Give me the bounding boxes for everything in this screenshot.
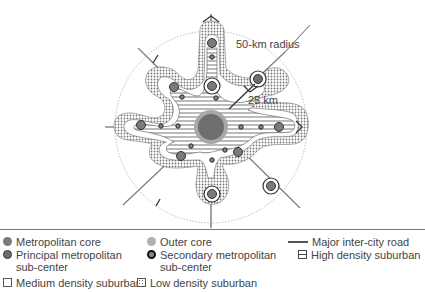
legend-item-high-density: High density suburban xyxy=(298,249,420,261)
dotted-square-icon xyxy=(137,278,146,287)
legend-item-metropolitan-core: Metropolitan core xyxy=(3,236,101,248)
dark-ringed-circle-icon xyxy=(3,250,12,259)
legend-item-secondary-subcenter: Secondary metropolitan sub-center xyxy=(147,249,287,273)
legend-item-medium-density: Medium density suburban xyxy=(3,277,142,289)
outer-radius-label: 50-km radius xyxy=(236,38,300,50)
hatched-square-icon xyxy=(298,250,307,259)
legend-item-low-density: Low density suburban xyxy=(137,277,257,289)
metropolitan-structure-diagram: 50-km radius 25 km xyxy=(0,0,425,228)
black-ring-circle-icon xyxy=(147,250,156,259)
light-grey-circle-icon xyxy=(147,237,156,246)
grey-filled-circle-icon xyxy=(3,237,12,246)
legend-item-outer-core: Outer core xyxy=(147,236,212,248)
road-line-icon xyxy=(288,241,308,243)
legend-item-road: Major inter-city road xyxy=(288,236,409,248)
legend: Metropolitan core Outer core Major inter… xyxy=(0,229,425,292)
metropolitan-core xyxy=(198,114,224,140)
empty-square-icon xyxy=(3,278,12,287)
inner-radius-label: 25 km xyxy=(248,94,278,106)
legend-item-principal-subcenter: Principal metropolitan sub-center xyxy=(3,249,143,273)
